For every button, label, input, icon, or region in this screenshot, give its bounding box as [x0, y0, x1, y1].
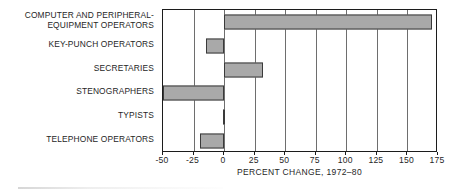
tick-label-75: 75 [310, 155, 320, 166]
category-label: KEY-PUNCH OPERATORS [48, 40, 154, 50]
bar [163, 86, 224, 101]
category-label: STENOGRAPHERS [76, 88, 154, 98]
tick-label-50: 50 [279, 155, 289, 166]
category-label: TYPISTS [118, 111, 154, 121]
bar [223, 110, 225, 125]
bar [224, 62, 263, 77]
plot-area [162, 9, 437, 152]
category-label: TELEPHONE OPERATORS [46, 135, 154, 145]
tick-label-175: 175 [430, 155, 445, 166]
bar [206, 38, 224, 53]
tick-label-150: 150 [399, 155, 414, 166]
category-axis-labels: COMPUTER AND PERIPHERAL- EQUIPMENT OPERA… [0, 9, 158, 152]
category-label: SECRETARIES [94, 64, 154, 74]
tick-label-25: 25 [249, 155, 259, 166]
tick-label--25: -25 [186, 155, 199, 166]
bar-chart-figure: COMPUTER AND PERIPHERAL- EQUIPMENT OPERA… [0, 0, 465, 193]
tick-label--50: -50 [155, 155, 168, 166]
bar [200, 134, 224, 149]
category-label: COMPUTER AND PERIPHERAL- EQUIPMENT OPERA… [25, 11, 154, 30]
page-edge-artifact [18, 187, 223, 189]
tick-label-0: 0 [221, 155, 226, 166]
tick-label-100: 100 [338, 155, 353, 166]
tick-label-125: 125 [368, 155, 383, 166]
x-axis-title: PERCENT CHANGE, 1972–80 [162, 167, 437, 177]
bar-series [163, 10, 436, 151]
bar [224, 14, 432, 29]
x-axis-ticks: -50-250255075100125150175 [162, 152, 437, 166]
